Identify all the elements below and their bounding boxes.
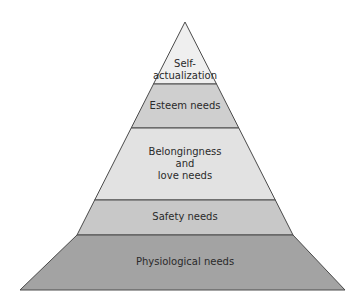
label-line: and bbox=[149, 158, 222, 170]
label-line: Esteem needs bbox=[150, 100, 221, 112]
label-line: Safety needs bbox=[152, 211, 217, 223]
label-esteem: Esteem needs bbox=[150, 100, 221, 112]
label-line: Self- bbox=[153, 58, 217, 70]
label-line: Physiological needs bbox=[136, 256, 234, 268]
label-line: actualization bbox=[153, 70, 217, 82]
label-safety: Safety needs bbox=[152, 211, 217, 223]
label-self-actualization: Self- actualization bbox=[153, 58, 217, 82]
label-line: Belongingness bbox=[149, 146, 222, 158]
label-belongingness: Belongingness and love needs bbox=[149, 146, 222, 182]
label-line: love needs bbox=[149, 170, 222, 182]
label-physiological: Physiological needs bbox=[136, 256, 234, 268]
